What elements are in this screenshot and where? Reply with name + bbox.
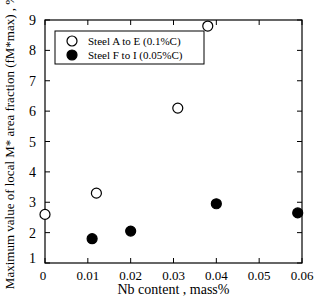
y-tick-label: 5	[29, 135, 36, 150]
data-point	[126, 226, 136, 236]
data-point	[87, 234, 97, 244]
y-tick-label: 2	[29, 226, 36, 241]
legend-marker	[67, 50, 77, 60]
legend-marker	[67, 36, 77, 46]
x-tick-label: 0.06	[291, 268, 314, 283]
x-tick-label: 0	[40, 268, 47, 283]
legend-label: Steel F to I (0.05%C)	[88, 49, 183, 62]
y-axis-label: Maximum value of local M* area fraction …	[2, 0, 17, 289]
scatter-chart: 00.010.020.030.040.050.06123456789Nb con…	[0, 0, 317, 304]
y-tick-label: 4	[29, 165, 36, 180]
data-point	[173, 103, 183, 113]
data-point	[40, 209, 50, 219]
data-point	[293, 208, 303, 218]
y-tick-label: 8	[29, 43, 36, 58]
legend-label: Steel A to E (0.1%C)	[88, 35, 181, 48]
y-tick-label: 7	[29, 74, 36, 89]
x-tick-label: 0.01	[76, 268, 99, 283]
y-tick-label: 6	[29, 104, 36, 119]
data-point	[203, 21, 213, 31]
x-tick-label: 0.02	[119, 268, 142, 283]
y-tick-label: 3	[29, 195, 36, 210]
x-axis-label: Nb content , mass%	[118, 282, 230, 297]
data-point	[91, 188, 101, 198]
x-tick-label: 0.04	[205, 268, 228, 283]
y-tick-label: 9	[29, 13, 36, 28]
data-point	[211, 199, 221, 209]
y-tick-label: 1	[29, 251, 36, 266]
x-tick-label: 0.05	[248, 268, 271, 283]
x-tick-label: 0.03	[162, 268, 185, 283]
